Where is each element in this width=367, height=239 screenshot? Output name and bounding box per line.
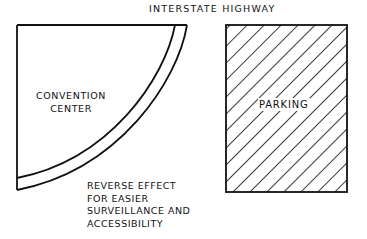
convention-center-label-line-2: CENTER [36, 102, 106, 115]
annotation-line-1: REVERSE EFFECT [87, 180, 190, 193]
annotation-line-2: FOR EASIER [87, 193, 190, 206]
annotation-line-3: SURVEILLANCE AND [87, 205, 190, 218]
annotation-note: REVERSE EFFECT FOR EASIER SURVEILLANCE A… [87, 180, 190, 230]
highway-label: INTERSTATE HIGHWAY [149, 2, 276, 15]
diagram-canvas: INTERSTATE HIGHWAY CONVENTION CENTER PAR… [0, 0, 367, 239]
annotation-line-4: ACCESSIBILITY [87, 218, 190, 231]
parking-label: PARKING [258, 98, 310, 111]
convention-center-label-line-1: CONVENTION [36, 89, 106, 102]
convention-center-label: CONVENTION CENTER [36, 89, 106, 115]
